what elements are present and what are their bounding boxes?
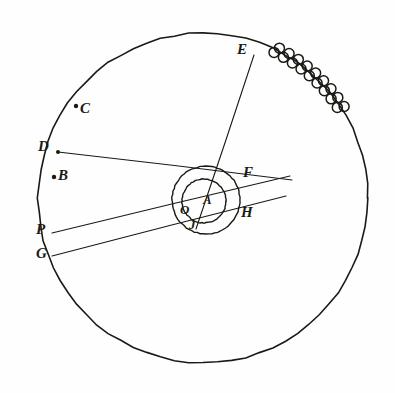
label-E: E — [237, 42, 247, 57]
point-D — [56, 150, 60, 154]
label-D: D — [38, 139, 49, 154]
point-C — [74, 104, 78, 108]
bead — [319, 76, 329, 86]
lines-group — [52, 55, 292, 256]
label-A: A — [203, 193, 212, 206]
beaded-arc — [269, 43, 349, 112]
line-D-to-F — [58, 152, 292, 180]
label-O: O — [180, 203, 189, 216]
label-P: P — [36, 222, 45, 237]
label-H: H — [241, 205, 253, 220]
label-B: B — [58, 168, 68, 183]
label-G: G — [36, 246, 47, 261]
figure-canvas: ECDBFAOHPJG — [0, 0, 395, 393]
point-B — [52, 175, 56, 179]
label-J: J — [189, 218, 196, 231]
bead — [311, 68, 321, 78]
circle-diagram — [0, 0, 395, 393]
label-C: C — [80, 101, 90, 116]
label-F: F — [243, 165, 253, 180]
